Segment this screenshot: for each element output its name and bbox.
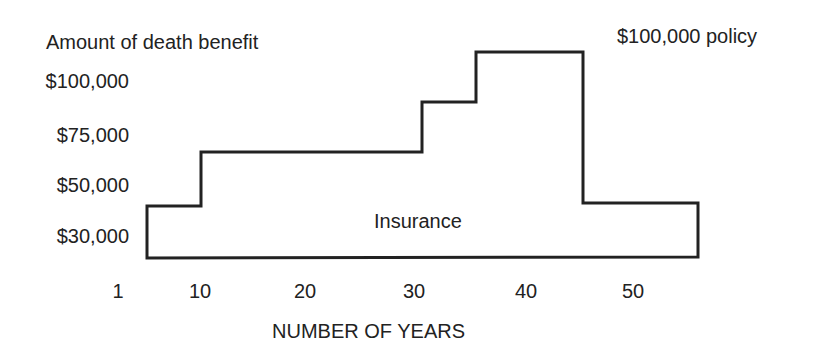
step-chart <box>0 0 819 357</box>
x-tick-label: 50 <box>613 281 653 301</box>
x-tick-label: 1 <box>98 281 138 301</box>
x-axis-title: NUMBER OF YEARS <box>272 321 465 341</box>
x-tick-label: 20 <box>285 281 325 301</box>
x-tick-label: 10 <box>180 281 220 301</box>
x-tick-label: 40 <box>506 281 546 301</box>
series-label: Insurance <box>374 211 462 231</box>
x-tick-label: 30 <box>394 281 434 301</box>
